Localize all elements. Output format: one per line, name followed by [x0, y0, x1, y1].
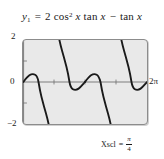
y-axis-zero-label: 0 — [10, 76, 15, 86]
title-equals: = — [34, 10, 42, 22]
title-function-cos: cos — [54, 10, 69, 22]
title-coefficient: 2 — [45, 10, 51, 22]
title-variable-subscript: 1 — [27, 16, 31, 24]
title-exponent: 2 — [69, 11, 73, 19]
xscl-annotation: Xscl = π 4 — [101, 136, 132, 153]
y-axis-max-label: 2 — [11, 31, 16, 41]
plot-canvas — [23, 40, 147, 124]
title-minus-sign: − — [109, 10, 117, 22]
title-argument-3: x — [137, 10, 142, 22]
graph-figure: y1 = 2 cos2 x tan x − tan x — [0, 0, 164, 159]
xscl-equals: = — [118, 140, 125, 149]
figure-title: y1 = 2 cos2 x tan x − tan x — [0, 10, 164, 24]
y-axis-min-label: −2 — [7, 118, 17, 128]
plot-area — [22, 39, 148, 125]
xscl-label: Xscl — [101, 140, 116, 149]
xscl-numerator: π — [126, 136, 132, 143]
title-argument-1: x — [76, 10, 81, 22]
xscl-fraction: π 4 — [126, 136, 132, 153]
xscl-denominator: 4 — [126, 146, 132, 153]
title-function-tan-2: tan — [120, 10, 134, 22]
x-axis-max-label: 2π — [149, 76, 158, 86]
title-argument-2: x — [101, 10, 106, 22]
title-function-tan-1: tan — [84, 10, 98, 22]
